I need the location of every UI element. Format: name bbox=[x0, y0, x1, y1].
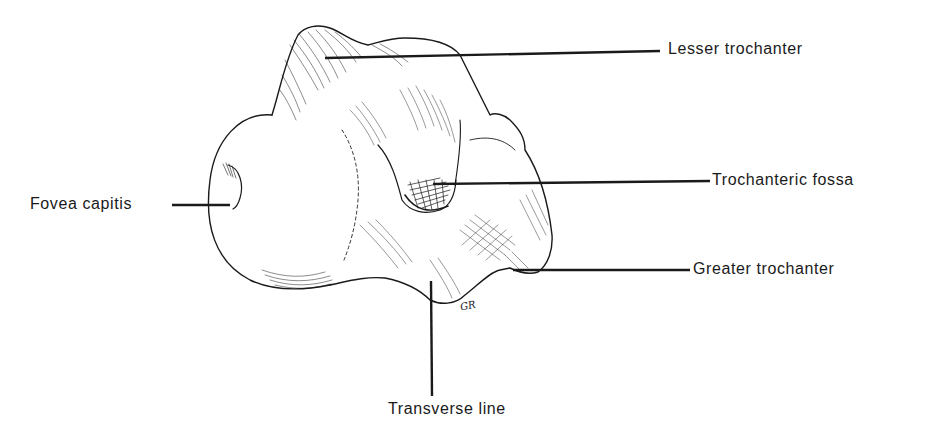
anatomy-diagram: GR Lesser trochanter Fovea capitis Troch… bbox=[0, 0, 935, 435]
leader-trochanteric-fossa bbox=[433, 181, 710, 184]
femoral-head-outline bbox=[208, 115, 330, 289]
leader-lesser-trochanter bbox=[325, 51, 660, 58]
label-fovea-capitis: Fovea capitis bbox=[30, 195, 132, 213]
label-transverse-line: Transverse line bbox=[388, 400, 506, 418]
leader-transverse-line bbox=[431, 281, 432, 396]
label-lesser-trochanter: Lesser trochanter bbox=[668, 40, 803, 58]
fovea-outline bbox=[228, 165, 242, 209]
label-greater-trochanter: Greater trochanter bbox=[693, 260, 835, 278]
femur-illustration bbox=[0, 0, 935, 435]
label-trochanteric-fossa: Trochanteric fossa bbox=[712, 171, 854, 189]
femur-body-outline bbox=[272, 26, 552, 303]
